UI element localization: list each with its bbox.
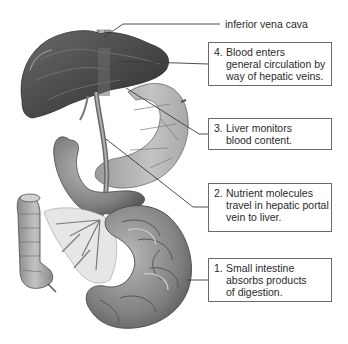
- callout-3-liver-monitors: 3. Liver monitors blood content.: [208, 118, 332, 150]
- callout-text-line: vein to liver.: [226, 211, 326, 223]
- callout-text-line: Small intestine: [226, 262, 326, 274]
- callout-2-nutrient-molecules: 2. Nutrient molecules travel in hepatic …: [208, 183, 332, 232]
- callout-text-line: Liver monitors: [226, 122, 326, 134]
- callout-text-line: Blood enters: [226, 46, 326, 58]
- callout-number: 2.: [214, 187, 223, 199]
- callout-4-hepatic-veins: 4. Blood enters general circulation by w…: [208, 42, 332, 86]
- inferior-vena-cava-label: inferior vena cava: [225, 18, 308, 30]
- callout-number: 3.: [214, 122, 223, 134]
- liver: [21, 31, 168, 118]
- callout-text-line: travel in hepatic portal: [226, 199, 326, 211]
- callout-text-line: way of hepatic veins.: [226, 70, 326, 82]
- hepatic-portal-diagram: inferior vena cava 4. Blood enters gener…: [0, 0, 348, 344]
- callout-number: 1.: [214, 262, 223, 274]
- callout-number: 4.: [214, 46, 223, 58]
- callout-text-line: of digestion.: [226, 286, 326, 298]
- vena-cava-through-liver: [98, 48, 110, 96]
- callout-1-small-intestine: 1. Small intestine absorbs products of d…: [208, 258, 332, 302]
- callout-text-line: blood content.: [226, 134, 326, 146]
- callout-text-line: Nutrient molecules: [226, 187, 326, 199]
- callout-text-line: absorbs products: [226, 274, 326, 286]
- large-intestine: [17, 194, 56, 292]
- callout-text-line: general circulation by: [226, 58, 326, 70]
